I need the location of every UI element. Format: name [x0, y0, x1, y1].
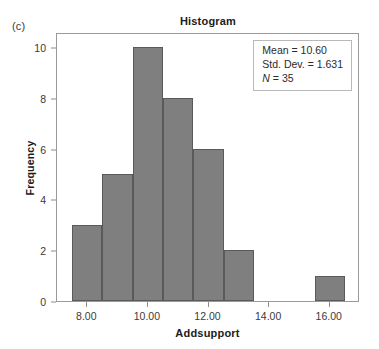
x-tick-label: 8.00 — [76, 310, 96, 322]
y-axis-title-wrap: Frequency — [6, 33, 24, 302]
y-tick-label: 0 — [40, 296, 46, 308]
histogram-bar — [102, 174, 132, 301]
stat-n: N = 35 — [262, 72, 343, 86]
x-tick-mark — [86, 302, 87, 307]
y-axis-title: Frequency — [24, 108, 36, 228]
x-tick-mark — [208, 302, 209, 307]
x-tick-mark — [268, 302, 269, 307]
y-tick-label: 10 — [34, 42, 46, 54]
x-axis-title: Addsupport — [56, 327, 359, 339]
y-tick-label: 8 — [40, 93, 46, 105]
histogram-figure: (c) Histogram 0246810 Frequency Mean = 1… — [0, 0, 379, 349]
x-tick-mark — [147, 302, 148, 307]
stat-n-value: = 35 — [270, 72, 294, 84]
plot-area: Mean = 10.60 Std. Dev. = 1.631 N = 35 — [56, 33, 359, 302]
x-tick-label: 16.00 — [316, 310, 342, 322]
histogram-bar — [193, 149, 223, 301]
histogram-bar — [133, 47, 163, 301]
x-tick-mark — [329, 302, 330, 307]
x-tick-label: 10.00 — [134, 310, 160, 322]
stat-stddev: Std. Dev. = 1.631 — [262, 58, 343, 72]
stat-n-symbol: N — [262, 72, 270, 84]
y-tick-label: 6 — [40, 144, 46, 156]
histogram-bar — [315, 276, 345, 301]
stat-mean: Mean = 10.60 — [262, 44, 343, 58]
x-tick-label: 14.00 — [255, 310, 281, 322]
x-tick-label: 12.00 — [194, 310, 220, 322]
statistics-box: Mean = 10.60 Std. Dev. = 1.631 N = 35 — [253, 40, 352, 91]
chart-title: Histogram — [56, 15, 360, 27]
panel-letter: (c) — [12, 20, 25, 32]
y-tick-label: 4 — [40, 194, 46, 206]
y-tick-label: 2 — [40, 245, 46, 257]
histogram-bar — [72, 225, 102, 301]
histogram-bar — [163, 98, 193, 301]
x-axis: 8.0010.0012.0014.0016.00 Addsupport — [56, 302, 359, 349]
plot-inner: Mean = 10.60 Std. Dev. = 1.631 N = 35 — [57, 34, 358, 301]
histogram-bar — [224, 250, 254, 301]
